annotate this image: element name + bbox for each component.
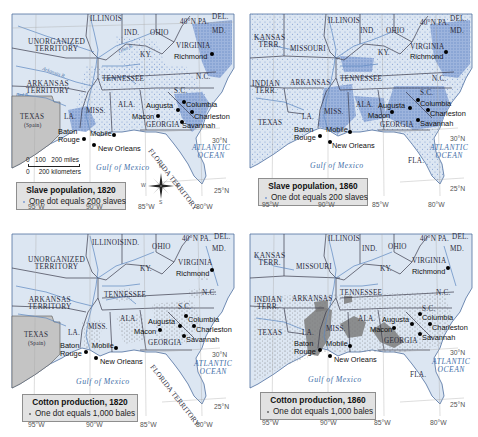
city-augusta: Augusta <box>378 102 405 109</box>
label-nc: N.C. <box>432 76 446 83</box>
label-texas-spain: (Spain) <box>24 123 42 129</box>
label-lat-30n: 30°N <box>212 138 227 145</box>
label-arkansas-territory: ARKANSAS TERRITORY <box>28 296 72 311</box>
label-virginia: VIRGINIA <box>412 258 446 265</box>
label-gulf-of-mexico: Gulf of Mexico <box>96 164 150 172</box>
city-richmond: Richmond <box>410 53 443 60</box>
label-sc: S.C. <box>420 90 433 97</box>
map-legend: Cotton production, 1820 One dot equals 1… <box>22 394 138 422</box>
label-ind: IND. <box>124 30 139 37</box>
city-marker-new-orleans <box>92 143 96 147</box>
label-miss: MISS. <box>326 326 346 333</box>
label-texas: TEXAS <box>20 114 44 121</box>
label-lon-95w: 95°W <box>28 204 45 211</box>
label-gulf-of-mexico: Gulf of Mexico <box>310 162 364 170</box>
legend-key: One dot equals 1,000 bales <box>29 408 131 419</box>
label-kansas-territory: KANSAS TERR. <box>254 34 285 49</box>
label-arkansas: ARKANSAS <box>290 80 330 87</box>
label-miss: MISS. <box>88 324 108 331</box>
label-ky: KY. <box>140 266 152 273</box>
city-charleston: Charleston <box>194 113 230 120</box>
label-lon-80w: 80°W <box>196 204 213 211</box>
map-legend: Cotton production, 1860 One dot equals 1… <box>260 392 376 420</box>
label-lon-80w: 80°W <box>428 202 445 209</box>
label-md: MD. <box>450 28 464 35</box>
label-la: LA. <box>302 330 314 337</box>
city-marker-augusta <box>176 108 180 112</box>
city-marker-new-orleans <box>94 356 98 360</box>
city-marker-richmond <box>446 266 450 270</box>
label-lat-25n: 25°N <box>214 404 229 411</box>
city-baton-rouge: Baton Rouge <box>294 340 324 356</box>
label-georgia: GEORGIA <box>148 340 182 347</box>
legend-key: One dot equals 1,000 bales <box>267 406 369 417</box>
label-fla: FLA. <box>408 158 424 165</box>
label-missouri: MISSOURI <box>290 46 326 53</box>
label-georgia: GEORGIA <box>146 122 180 129</box>
label-fla: FLA. <box>410 372 426 379</box>
label-lon-90w: 90°W <box>320 420 337 427</box>
city-charleston: Charleston <box>430 110 466 117</box>
city-savannah: Savannah <box>182 122 215 129</box>
city-new-orleans: New Orleans <box>98 145 141 152</box>
label-miss: MISS. <box>324 109 344 116</box>
label-lat-30n: 30°N <box>450 136 465 143</box>
label-lon-80w: 80°W <box>430 420 447 427</box>
label-kansas-territory: KANSAS TERR. <box>254 252 285 267</box>
city-marker-richmond <box>444 50 448 54</box>
legend-dot-icon <box>267 411 269 413</box>
legend-key: One dot equals 200 slaves <box>265 192 361 203</box>
label-illinois: ILLINOIS <box>90 16 122 23</box>
city-marker-augusta <box>410 322 414 326</box>
legend-title: Cotton production, 1860 <box>267 395 369 406</box>
label-del: DEL. <box>452 234 469 241</box>
label-atlantic-ocean: ATLANTIC OCEAN <box>194 360 232 375</box>
label-lon-90w: 90°W <box>86 204 103 211</box>
city-marker-augusta <box>178 324 182 328</box>
label-texas: TEXAS <box>258 120 282 127</box>
city-macon: Macon <box>132 113 154 120</box>
label-ohio: OHIO <box>152 244 171 251</box>
label-gulf-of-mexico: Gulf of Mexico <box>76 378 130 386</box>
label-illinois: ILLINOIS <box>328 18 360 25</box>
label-virginia: VIRGINIA <box>176 43 210 50</box>
label-pa: 40°N PA. <box>180 19 209 26</box>
label-lat-25n: 25°N <box>214 188 229 195</box>
label-lon-85w: 85°W <box>138 204 155 211</box>
label-nc: N.C. <box>436 290 450 297</box>
scale-km: 0 200 kilometers <box>26 168 81 175</box>
city-marker-new-orleans <box>328 354 332 358</box>
compass-icon <box>144 169 178 203</box>
city-new-orleans: New Orleans <box>334 356 377 363</box>
label-tennessee: TENNESSEE <box>340 290 382 297</box>
city-marker-augusta <box>408 106 412 110</box>
label-ind: IND. <box>124 240 139 247</box>
label-ky: KY. <box>140 52 152 59</box>
city-mobile: Mobile <box>326 340 348 347</box>
city-macon: Macon <box>370 326 392 333</box>
city-mobile: Mobile <box>90 130 112 137</box>
city-mobile: Mobile <box>92 342 114 349</box>
compass-w: W <box>141 183 146 188</box>
label-la: LA. <box>302 114 314 121</box>
city-marker-macon <box>392 326 396 330</box>
label-lon-95w: 95°W <box>28 422 45 429</box>
label-lat-25n: 25°N <box>450 402 465 409</box>
city-baton-rouge: Baton Rouge <box>60 342 90 358</box>
label-lon-85w: 85°W <box>374 420 391 427</box>
label-tennessee: TENNESSEE <box>102 76 144 83</box>
label-md: MD. <box>212 28 226 35</box>
city-richmond: Richmond <box>412 268 445 275</box>
compass-e: E <box>176 183 179 188</box>
city-augusta: Augusta <box>382 316 409 323</box>
label-lon-95w: 95°W <box>262 202 279 209</box>
label-ohio: OHIO <box>388 244 407 251</box>
city-savannah: Savannah <box>422 334 455 341</box>
scale-bar: 0 100 200 miles 0 200 kilometers <box>26 156 81 175</box>
compass-s: S <box>159 200 162 205</box>
city-marker-richmond <box>210 268 214 272</box>
label-md: MD. <box>450 246 464 253</box>
city-marker-mobile <box>114 346 118 350</box>
city-charleston: Charleston <box>432 324 468 331</box>
city-richmond: Richmond <box>174 53 207 60</box>
